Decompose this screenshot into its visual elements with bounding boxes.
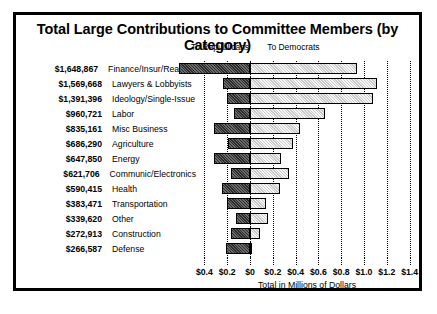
tick-label: $0 (245, 267, 255, 277)
tick-label: $0.2 (219, 267, 236, 277)
tick-mark (410, 258, 411, 265)
label-row: $1,569,668Lawyers & Lobbyists (24, 78, 196, 89)
row-total-amount: $686,290 (24, 139, 112, 149)
label-row: $383,471Transportation (24, 198, 196, 209)
label-row: $1,648,867Finance/Insur/Real Est (24, 63, 196, 74)
row-category-label: Health (112, 184, 196, 194)
label-row: $266,587Defense (24, 243, 196, 254)
bar-row (193, 228, 421, 239)
legend-label-republicans: To Republicans (191, 42, 249, 52)
tick-mark (387, 258, 388, 265)
label-row: $960,721Labor (24, 108, 196, 119)
row-total-amount: $1,569,668 (24, 79, 112, 89)
category-label-column: $1,648,867Finance/Insur/Real Est$1,569,6… (24, 61, 196, 258)
row-category-label: Other (112, 214, 196, 224)
bar-republicans (223, 78, 250, 89)
tick-mark (204, 258, 205, 265)
tick-mark (273, 258, 274, 265)
x-axis-tickmarks (193, 258, 421, 265)
bar-republicans (214, 153, 250, 164)
tick-label: $0.2 (264, 267, 281, 277)
bar-row (193, 138, 421, 149)
label-row: $1,391,396Ideology/Single-Issue (24, 93, 196, 104)
bar-republicans (231, 228, 250, 239)
bar-democrats (250, 153, 281, 164)
bar-democrats (250, 123, 300, 134)
bar-row (193, 213, 421, 224)
bar-row (193, 63, 421, 74)
label-row: $590,415Health (24, 183, 196, 194)
tick-mark (227, 258, 228, 265)
bar-democrats (250, 228, 260, 239)
bar-republicans (228, 138, 250, 149)
bar-republicans (227, 93, 250, 104)
row-total-amount: $647,850 (24, 154, 112, 164)
bar-democrats (250, 93, 373, 104)
row-category-label: Ideology/Single-Issue (112, 94, 196, 104)
chart-legend: To Republicans To Democrats (191, 42, 421, 52)
row-total-amount: $339,620 (24, 214, 112, 224)
bar-democrats (250, 63, 357, 74)
row-total-amount: $266,587 (24, 244, 112, 254)
x-axis-title: Total in Millions of Dollars (193, 280, 421, 290)
bar-republicans (236, 213, 250, 224)
bar-row (193, 93, 421, 104)
tick-label: $1.2 (378, 267, 395, 277)
x-axis-tick-labels: $0.4$0.2$0$0.2$0.4$0.6$0.8$1.0$1.2$1.4 (193, 267, 421, 279)
bar-row (193, 108, 421, 119)
row-category-label: Transportation (112, 199, 196, 209)
label-row: $272,913Construction (24, 228, 196, 239)
row-category-label: Misc Business (112, 124, 196, 134)
row-total-amount: $1,648,867 (24, 64, 108, 74)
legend-label-democrats: To Democrats (267, 42, 319, 52)
row-total-amount: $960,721 (24, 109, 112, 119)
bar-row (193, 78, 421, 89)
bar-democrats (250, 168, 289, 179)
bar-row (193, 168, 421, 179)
tick-mark (250, 258, 251, 265)
bar-row (193, 123, 421, 134)
bar-row (193, 198, 421, 209)
row-total-amount: $272,913 (24, 229, 112, 239)
bar-democrats (250, 198, 266, 209)
tick-label: $0.4 (287, 267, 304, 277)
tick-mark (296, 258, 297, 265)
bar-democrats (250, 213, 268, 224)
row-category-label: Communic/Electronics (110, 169, 196, 179)
label-row: $647,850Energy (24, 153, 196, 164)
plot-area (193, 61, 421, 258)
row-category-label: Energy (112, 154, 196, 164)
label-row: $339,620Other (24, 213, 196, 224)
row-total-amount: $1,391,396 (24, 94, 112, 104)
bar-republicans (214, 123, 250, 134)
tick-label: $1.0 (356, 267, 373, 277)
row-category-label: Agriculture (112, 139, 196, 149)
label-row: $686,290Agriculture (24, 138, 196, 149)
tick-mark (364, 258, 365, 265)
row-total-amount: $383,471 (24, 199, 112, 209)
row-total-amount: $835,161 (24, 124, 112, 134)
bar-republicans (179, 63, 250, 74)
row-category-label: Labor (112, 109, 196, 119)
bar-democrats (250, 243, 252, 254)
label-row: $621,706Communic/Electronics (24, 168, 196, 179)
bar-republicans (226, 243, 250, 254)
row-category-label: Lawyers & Lobbyists (112, 79, 196, 89)
bar-row (193, 243, 421, 254)
bar-rows (193, 61, 421, 258)
bar-row (193, 153, 421, 164)
bar-democrats (250, 183, 280, 194)
label-row: $835,161Misc Business (24, 123, 196, 134)
tick-label: $1.4 (401, 267, 418, 277)
chart-frame: Total Large Contributions to Committee M… (13, 12, 422, 291)
tick-label: $0.4 (196, 267, 213, 277)
bar-democrats (250, 78, 377, 89)
tick-mark (341, 258, 342, 265)
bar-row (193, 183, 421, 194)
bar-republicans (227, 198, 250, 209)
bar-republicans (234, 108, 250, 119)
bar-democrats (250, 108, 325, 119)
row-category-label: Defense (112, 244, 196, 254)
row-category-label: Construction (112, 229, 196, 239)
bar-republicans (222, 183, 251, 194)
